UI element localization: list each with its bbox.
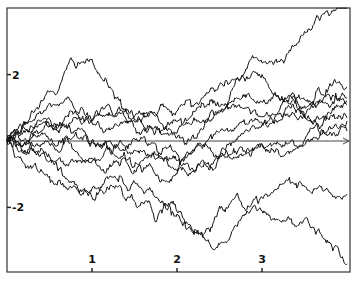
brownian-path-line bbox=[7, 141, 347, 237]
brownian-paths-chart: 1232-2 bbox=[0, 0, 356, 281]
brownian-path-line bbox=[7, 112, 347, 166]
x-tick-label: 2 bbox=[173, 253, 181, 266]
y-tick-label: 2 bbox=[12, 69, 20, 82]
x-tick-label: 3 bbox=[258, 253, 266, 266]
sample-paths bbox=[7, 8, 347, 265]
y-tick-label: -2 bbox=[12, 201, 24, 214]
x-tick-label: 1 bbox=[88, 253, 96, 266]
plot-frame bbox=[7, 8, 350, 272]
